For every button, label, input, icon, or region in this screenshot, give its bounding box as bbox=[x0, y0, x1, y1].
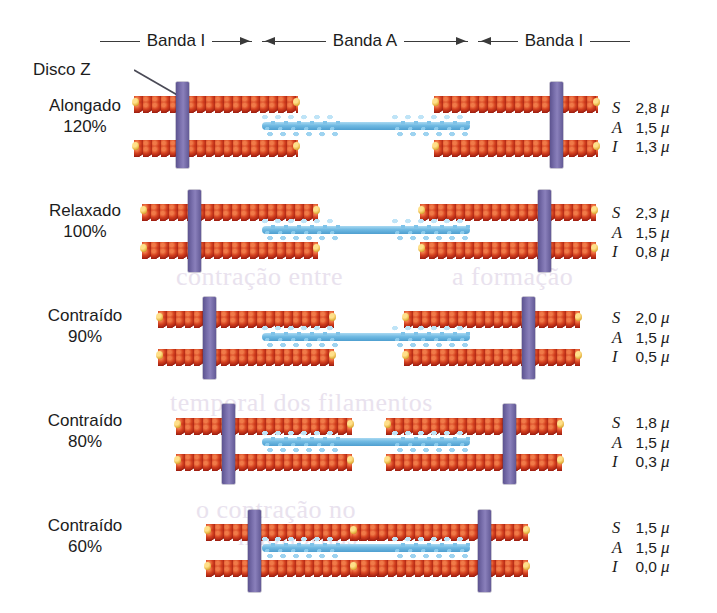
z-disc bbox=[203, 297, 216, 379]
z-disc bbox=[222, 404, 235, 484]
z-disc bbox=[248, 510, 261, 592]
measure-key: I bbox=[612, 137, 626, 157]
measure-value: 2,8 bbox=[626, 98, 661, 118]
measure-line: I0,0μ bbox=[612, 557, 670, 577]
myosin-filament bbox=[262, 109, 470, 143]
z-disc bbox=[538, 190, 551, 272]
measure-value: 1,5 bbox=[626, 538, 661, 558]
measure-value: 0,3 bbox=[626, 452, 661, 472]
ghost-text-2: a formação bbox=[452, 262, 573, 292]
myosin-filament bbox=[262, 213, 470, 247]
measure-unit: μ bbox=[661, 242, 670, 262]
measure-key: I bbox=[612, 452, 626, 472]
measure-line: I0,8μ bbox=[612, 242, 670, 262]
measure-key: A bbox=[612, 223, 626, 243]
state-percent-row4: 80% bbox=[10, 431, 160, 452]
state-label-row3: Contraído 90% bbox=[10, 305, 160, 347]
myosin-filament bbox=[262, 320, 470, 354]
measure-value: 0,5 bbox=[626, 347, 661, 367]
measure-line: A1,5μ bbox=[612, 433, 670, 453]
measure-key: S bbox=[612, 518, 626, 538]
measure-value: 0,8 bbox=[626, 242, 661, 262]
measure-line: I0,5μ bbox=[612, 347, 670, 367]
ghost-text-3: temporal dos filamentos bbox=[170, 388, 433, 418]
measure-unit: μ bbox=[661, 308, 670, 328]
state-name-row5: Contraído bbox=[10, 515, 160, 536]
measure-line: S2,3μ bbox=[612, 203, 670, 223]
band-arrow-center-right bbox=[456, 35, 469, 48]
measure-unit: μ bbox=[661, 518, 670, 538]
measure-key: A bbox=[612, 433, 626, 453]
measurements-row1: S2,8μ A1,5μ I1,3μ bbox=[612, 98, 670, 157]
band-arrow-left-right bbox=[240, 35, 253, 48]
measure-key: S bbox=[612, 413, 626, 433]
measure-key: I bbox=[612, 242, 626, 262]
measure-key: I bbox=[612, 347, 626, 367]
state-percent-row5: 60% bbox=[10, 536, 160, 557]
measure-line: A1,5μ bbox=[612, 328, 670, 348]
measure-key: S bbox=[612, 308, 626, 328]
measurements-row4: S1,8μ A1,5μ I0,3μ bbox=[612, 413, 670, 472]
measure-line: S2,8μ bbox=[612, 98, 670, 118]
ghost-text-4: o contração no bbox=[196, 495, 356, 525]
z-disc bbox=[176, 82, 189, 168]
band-annotation-row: Banda I Banda A Banda I bbox=[0, 28, 717, 54]
measure-line: I1,3μ bbox=[612, 137, 670, 157]
z-disc bbox=[503, 404, 516, 484]
measure-value: 2,0 bbox=[626, 308, 661, 328]
measure-unit: μ bbox=[661, 203, 670, 223]
state-name-row2: Relaxado bbox=[10, 200, 160, 221]
state-percent-row2: 100% bbox=[10, 221, 160, 242]
measure-unit: μ bbox=[661, 538, 670, 558]
measure-value: 0,0 bbox=[626, 557, 661, 577]
measure-key: I bbox=[612, 557, 626, 577]
ghost-text-1: contração entre bbox=[176, 262, 343, 292]
measure-value: 1,3 bbox=[626, 137, 661, 157]
measure-key: A bbox=[612, 538, 626, 558]
state-percent-row1: 120% bbox=[10, 116, 160, 137]
z-disc bbox=[522, 297, 535, 379]
measure-key: A bbox=[612, 328, 626, 348]
measurements-row3: S2,0μ A1,5μ I0,5μ bbox=[612, 308, 670, 367]
measure-unit: μ bbox=[661, 557, 670, 577]
measure-unit: μ bbox=[661, 137, 670, 157]
measure-unit: μ bbox=[661, 98, 670, 118]
measure-line: A1,5μ bbox=[612, 118, 670, 138]
measurements-row5: S1,5μ A1,5μ I0,0μ bbox=[612, 518, 670, 577]
band-arrow-center-left bbox=[262, 35, 275, 48]
band-label-a: Banda A bbox=[326, 31, 404, 51]
state-name-row3: Contraído bbox=[10, 305, 160, 326]
measure-line: S1,5μ bbox=[612, 518, 670, 538]
measure-unit: μ bbox=[661, 452, 670, 472]
z-disc bbox=[550, 82, 563, 168]
measure-key: S bbox=[612, 203, 626, 223]
measure-line: A1,5μ bbox=[612, 223, 670, 243]
measure-key: S bbox=[612, 98, 626, 118]
measure-value: 1,5 bbox=[626, 118, 661, 138]
myosin-filament bbox=[262, 425, 470, 459]
measure-unit: μ bbox=[661, 433, 670, 453]
state-label-row4: Contraído 80% bbox=[10, 410, 160, 452]
state-label-row2: Relaxado 100% bbox=[10, 200, 160, 242]
measure-unit: μ bbox=[661, 413, 670, 433]
disco-z-label: Disco Z bbox=[33, 60, 91, 80]
measure-value: 2,3 bbox=[626, 203, 661, 223]
measure-value: 1,5 bbox=[626, 433, 661, 453]
figure-canvas: contração entre a formação temporal dos … bbox=[0, 0, 717, 613]
measure-unit: μ bbox=[661, 223, 670, 243]
z-disc bbox=[478, 510, 491, 592]
state-name-row4: Contraído bbox=[10, 410, 160, 431]
z-disc bbox=[188, 190, 201, 272]
measure-value: 1,5 bbox=[626, 518, 661, 538]
measure-unit: μ bbox=[661, 347, 670, 367]
measure-unit: μ bbox=[661, 118, 670, 138]
measure-line: S2,0μ bbox=[612, 308, 670, 328]
band-arrow-right-left bbox=[478, 35, 491, 48]
measure-line: A1,5μ bbox=[612, 538, 670, 558]
state-percent-row3: 90% bbox=[10, 326, 160, 347]
myosin-filament bbox=[262, 531, 470, 565]
measure-value: 1,5 bbox=[626, 328, 661, 348]
measurements-row2: S2,3μ A1,5μ I0,8μ bbox=[612, 203, 670, 262]
state-label-row5: Contraído 60% bbox=[10, 515, 160, 557]
measure-value: 1,8 bbox=[626, 413, 661, 433]
